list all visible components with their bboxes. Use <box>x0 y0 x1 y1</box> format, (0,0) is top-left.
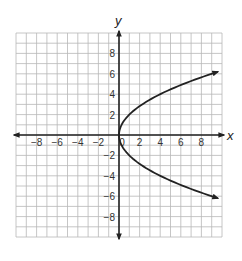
x-axis-label: x <box>226 128 234 143</box>
y-tick-label: 2 <box>109 110 115 121</box>
x-tick-label: 2 <box>137 137 143 148</box>
y-tick-label: −8 <box>104 212 116 223</box>
y-axis-label: y <box>114 13 123 28</box>
coordinate-plane: −8−6−4−202468−8−6−4−22468 x y <box>0 0 242 261</box>
y-tick-label: −4 <box>104 171 116 182</box>
y-tick-label: −6 <box>104 191 116 202</box>
x-tick-label: 8 <box>199 137 205 148</box>
y-tick-label: −2 <box>104 150 116 161</box>
y-tick-label: 8 <box>109 48 115 59</box>
x-tick-label: 4 <box>157 137 163 148</box>
y-tick-label: 4 <box>109 89 115 100</box>
x-tick-label: −6 <box>51 137 63 148</box>
x-tick-label: −2 <box>93 137 105 148</box>
x-tick-label: −8 <box>31 137 43 148</box>
x-tick-label: 6 <box>178 137 184 148</box>
y-tick-label: 6 <box>109 69 115 80</box>
x-tick-label: −4 <box>72 137 84 148</box>
